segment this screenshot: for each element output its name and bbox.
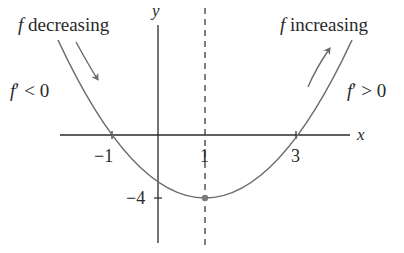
tick-label-neg1: −1 — [94, 146, 113, 166]
increasing-arrow — [308, 48, 330, 87]
f-decreasing-label: f decreasing — [18, 14, 110, 35]
derivative-positive-label: f′ > 0 — [347, 80, 386, 101]
tick-label-1: 1 — [200, 146, 209, 166]
decreasing-arrow — [76, 42, 98, 80]
tick-label-neg4: −4 — [126, 188, 145, 208]
vertex-point — [202, 195, 208, 201]
derivative-negative-label: f′ < 0 — [10, 80, 49, 101]
y-axis-label: y — [150, 1, 160, 20]
function-graph: y x f decreasing f increasing f′ < 0 f′ … — [0, 0, 404, 253]
tick-label-3: 3 — [291, 146, 300, 166]
f-increasing-label: f increasing — [280, 14, 369, 35]
x-axis-label: x — [356, 125, 365, 144]
